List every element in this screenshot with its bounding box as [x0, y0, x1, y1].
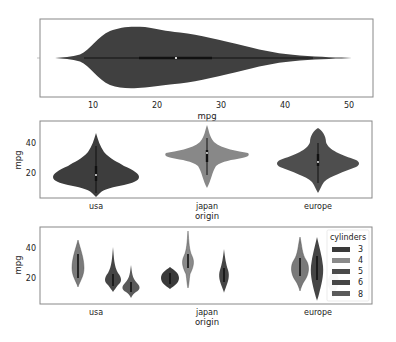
y-axis-label: mpg: [13, 150, 23, 169]
legend-swatch-8: [332, 291, 350, 296]
legend-label: 4: [358, 256, 363, 265]
legend-label: 5: [358, 267, 363, 276]
xtick-label: usa: [89, 202, 103, 211]
xtick-label: japan: [195, 308, 218, 317]
xtick-label: europe: [304, 308, 332, 317]
legend-swatch-3: [332, 247, 350, 252]
legend-label: 3: [358, 245, 363, 254]
plot1-xaxis: 10 20 30 40 50 mpg: [88, 101, 354, 121]
figure: 10 20 30 40 50 mpg 40 20 mpg usa japan: [0, 0, 396, 342]
median-japan: [206, 152, 208, 154]
plot-mpg-by-origin: 40 20 mpg usa japan europe origin: [13, 121, 372, 221]
xtick-label: japan: [195, 202, 218, 211]
median-overall: [175, 57, 177, 59]
plot-overall-mpg: 10 20 30 40 50 mpg: [37, 19, 373, 121]
xtick-label: 30: [216, 101, 226, 110]
legend-label: 6: [358, 278, 363, 287]
ytick-label: 20: [26, 274, 36, 283]
legend: cylinders 3 4 5 6 8: [327, 230, 369, 301]
ytick-label: 20: [26, 169, 36, 178]
x-axis-label: origin: [195, 317, 219, 327]
xtick-label: 10: [88, 101, 98, 110]
legend-swatch-5: [332, 269, 350, 274]
plot-mpg-by-origin-cylinders: 40 20 mpg cylinders 3: [13, 227, 372, 327]
x-axis-label: mpg: [197, 111, 216, 121]
legend-label: 8: [358, 290, 363, 299]
xtick-label: europe: [304, 202, 332, 211]
y-axis-label: mpg: [13, 255, 23, 274]
legend-title: cylinders: [330, 233, 366, 242]
median-usa: [95, 174, 97, 176]
median-europe: [317, 161, 319, 163]
ytick-label: 40: [26, 244, 36, 253]
legend-swatch-6: [332, 280, 350, 285]
xtick-label: usa: [89, 308, 103, 317]
xtick-label: 50: [344, 101, 354, 110]
xtick-label: 40: [280, 101, 290, 110]
x-axis-label: origin: [195, 211, 219, 221]
legend-swatch-4: [332, 258, 350, 263]
violin-usa-cyl8: [122, 265, 139, 298]
xtick-label: 20: [152, 101, 162, 110]
ytick-label: 40: [26, 139, 36, 148]
